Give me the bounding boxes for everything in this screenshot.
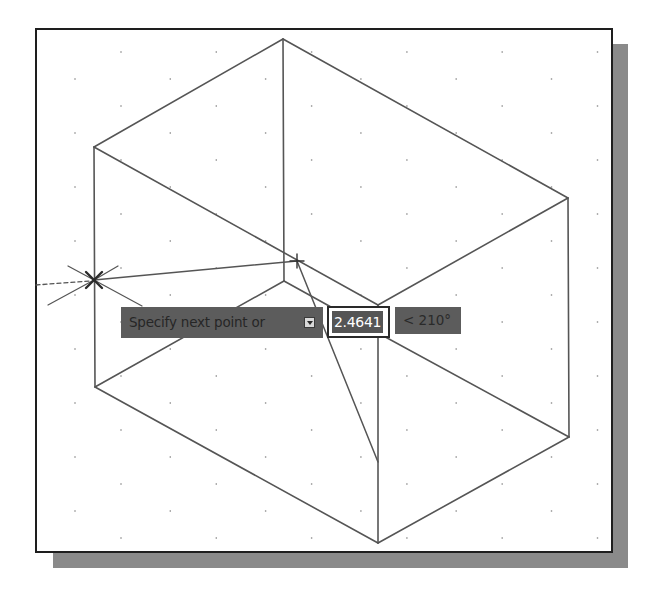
autocad-drawing-area[interactable]: Specify next point or 2.4641 < 210° <box>0 0 652 594</box>
dynamic-input-prompt: Specify next point or <box>121 307 323 338</box>
isometric-grid-dots <box>74 51 598 538</box>
rubber-band-lines <box>94 261 378 462</box>
distance-value-selected[interactable]: 2.4641 <box>332 311 383 333</box>
dashed-extension-line <box>36 281 90 285</box>
angle-input-field[interactable]: < 210° <box>395 307 461 334</box>
angle-value: < 210° <box>403 312 451 328</box>
drawing-canvas[interactable] <box>0 0 652 594</box>
prompt-label: Specify next point or <box>129 314 265 330</box>
distance-input-field[interactable]: 2.4641 <box>327 306 390 338</box>
isometric-box-edges <box>94 39 569 543</box>
down-arrow-icon[interactable] <box>304 317 315 328</box>
crosshair-cursor-icon[interactable] <box>290 254 304 268</box>
